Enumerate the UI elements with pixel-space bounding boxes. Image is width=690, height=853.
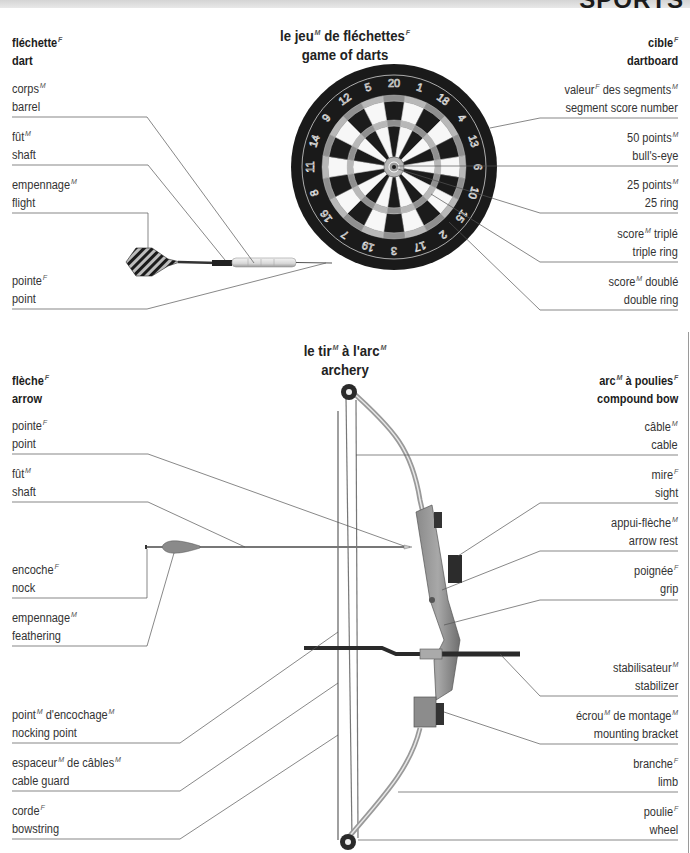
label-cable: câbleM cable — [645, 418, 678, 454]
label-arrow-shaft: fûtM shaft — [12, 465, 36, 501]
label-segment-score-number: valeurF des segmentsM segment score numb… — [565, 81, 678, 117]
segment-number: 20 — [388, 77, 400, 89]
label-25-ring: 25 pointsM 25 ring — [627, 176, 678, 212]
label-triple-ring: scoreM triplé triple ring — [617, 225, 678, 261]
label-sight: mireF sight — [651, 466, 678, 502]
label-nock: encocheF nock — [12, 561, 59, 597]
segment-number: 6 — [472, 164, 484, 170]
label-wheel: poulieF wheel — [643, 803, 678, 839]
dart-graphic — [126, 248, 332, 276]
label-nocking-point: pointM d'encochageM nocking point — [12, 706, 114, 742]
label-limb: brancheF limb — [633, 755, 678, 791]
label-arrow-rest: appui-flècheM arrow rest — [611, 514, 678, 550]
darts-section-title: le jeuM de fléchettesF game of darts — [257, 26, 433, 64]
label-arrow-point: pointeF point — [12, 417, 47, 453]
label-grip: poignéeF grip — [634, 562, 678, 598]
label-bulls-eye: 50 pointsM bull's-eye — [627, 129, 678, 165]
label-dart-shaft: fûtM shaft — [12, 128, 36, 164]
label-bowstring: cordeF bowstring — [12, 802, 59, 838]
label-feathering: empennageM feathering — [12, 609, 77, 645]
label-barrel: corpsM barrel — [12, 80, 46, 116]
label-double-ring: scoreM doublé double ring — [608, 273, 678, 309]
dart-header: fléchetteF dart — [12, 34, 62, 70]
segment-number: 11 — [304, 161, 316, 172]
dartboard-graphic: 2011841361015217319716811149125 — [291, 64, 497, 270]
arrow-header: flècheF arrow — [12, 372, 49, 408]
dartboard-header: cibleF dartboard — [627, 34, 678, 70]
label-cable-guard: espaceurM de câblesM cable guard — [12, 754, 121, 790]
archery-section-title: le tirM à l'arcM archery — [257, 341, 433, 379]
label-dart-point: pointeF point — [12, 272, 47, 308]
label-stabilizer: stabilisateurM stabilizer — [613, 659, 678, 695]
arrow-graphic — [146, 541, 412, 553]
label-mounting-bracket: écrouM de montageM mounting bracket — [576, 707, 678, 743]
label-flight: empennageM flight — [12, 176, 77, 212]
compound-bow-graphic — [304, 384, 520, 850]
segment-number: 3 — [391, 245, 397, 257]
compound-bow-header: arcM à pouliesF compound bow — [597, 372, 678, 408]
